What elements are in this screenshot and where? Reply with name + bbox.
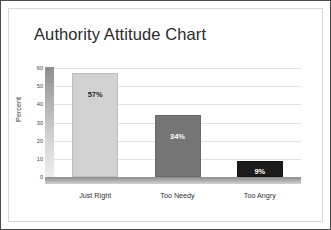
y-axis-tick-label: 30 xyxy=(29,120,43,126)
y-axis-title: Percent xyxy=(14,84,23,136)
y-axis-tick-label: 20 xyxy=(29,138,43,144)
x-axis-category-label: Just Right xyxy=(54,191,136,200)
bar-just-right[interactable]: 57% xyxy=(72,73,118,177)
plot-area: 57%34%9% xyxy=(54,68,301,177)
bar-value-label: 34% xyxy=(156,132,200,141)
y-axis-wall xyxy=(45,67,54,179)
y-axis-tick-label: 50 xyxy=(29,83,43,89)
y-axis-tick-label: 60 xyxy=(29,65,43,71)
bar-value-label: 57% xyxy=(73,90,117,99)
gridline xyxy=(54,68,301,69)
page-title: Authority Attitude Chart xyxy=(34,24,206,44)
bar-value-label: 9% xyxy=(238,167,282,176)
y-axis-tick-label: 10 xyxy=(29,156,43,162)
axis-baseline xyxy=(45,177,301,184)
x-axis-category-label: Too Angry xyxy=(219,191,301,200)
y-axis-tick-label: 40 xyxy=(29,101,43,107)
bar-too-needy[interactable]: 34% xyxy=(155,115,201,177)
bar-too-angry[interactable]: 9% xyxy=(237,161,283,177)
y-axis-tick-labels: 0102030405060 xyxy=(27,68,43,177)
x-axis-category-label: Too Needy xyxy=(136,191,218,200)
slide-frame: Authority Attitude Chart Percent 0102030… xyxy=(0,0,331,230)
y-axis-tick-label: 0 xyxy=(29,174,43,180)
